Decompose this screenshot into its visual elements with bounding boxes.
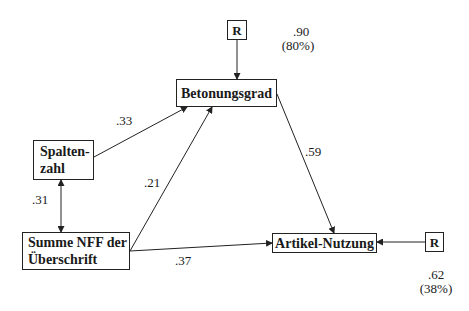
edge-spaltenzahl-to-betonungsgrad bbox=[94, 107, 187, 157]
node-betonungsgrad: Betonungsgrad bbox=[176, 79, 277, 107]
node-label: Artikel-Nutzung bbox=[275, 235, 374, 252]
residual-top-percent: (80%) bbox=[273, 39, 323, 53]
node-spaltenzahl: Spalten- zahl bbox=[33, 140, 94, 180]
residual-label: R bbox=[430, 234, 439, 251]
node-artikel-nutzung: Artikel-Nutzung bbox=[272, 233, 377, 253]
node-label: Summe NFF der Überschrift bbox=[28, 234, 127, 268]
coefficient-31: .31 bbox=[32, 193, 48, 207]
coefficient-33: .33 bbox=[116, 114, 132, 128]
residual-label: R bbox=[232, 22, 241, 39]
coefficient-37: .37 bbox=[175, 254, 191, 268]
node-label: Betonungsgrad bbox=[181, 85, 272, 102]
residual-top-value: .90 bbox=[281, 25, 321, 39]
coefficient-59: .59 bbox=[305, 145, 321, 159]
edge-summe-to-artikel bbox=[130, 243, 272, 251]
residual-box-top: R bbox=[227, 20, 247, 40]
node-summe-nff: Summe NFF der Überschrift bbox=[22, 232, 130, 270]
residual-box-right: R bbox=[425, 232, 444, 252]
edge-betonungsgrad-to-artikel bbox=[277, 94, 334, 233]
residual-right-value: .62 bbox=[416, 268, 456, 282]
coefficient-21: .21 bbox=[144, 176, 160, 190]
residual-right-percent: (38%) bbox=[411, 282, 461, 296]
edge-summe-to-betonungsgrad bbox=[130, 107, 212, 251]
node-label: Spalten- zahl bbox=[40, 143, 90, 177]
